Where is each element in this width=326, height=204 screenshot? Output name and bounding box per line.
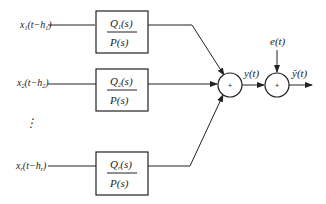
ellipsis: ⋮ — [25, 116, 37, 130]
input-1: x1(t−h1) — [19, 19, 95, 31]
connector-1 — [148, 25, 224, 75]
input-label-2: x2(t−h2) — [16, 77, 49, 89]
input-label-r: xr(t−hr) — [15, 160, 47, 172]
output-label: ŷ(t) — [291, 67, 308, 80]
transfer-block-1: Q1(s) P(s) — [96, 11, 148, 53]
summing-junction-1: + — [218, 73, 242, 97]
connector-r — [148, 95, 223, 166]
sum-1-symbol: + — [228, 82, 232, 89]
block-1-denominator: P(s) — [109, 36, 129, 49]
summing-junction-2: + — [265, 73, 289, 97]
block-diagram: x1(t−h1) x2(t−h2) ⋮ xr(t−hr) Q1(s) P(s) … — [0, 0, 326, 204]
sum-2-symbol: + — [275, 82, 279, 89]
input-2: x2(t−h2) — [16, 77, 96, 89]
noise-label: e(t) — [270, 35, 286, 48]
signal-y-label: y(t) — [243, 67, 260, 80]
block-2-numerator: Q2(s) — [110, 75, 133, 88]
block-2-denominator: P(s) — [109, 94, 129, 107]
transfer-block-2: Q2(s) P(s) — [96, 69, 148, 111]
block-1-numerator: Q1(s) — [110, 17, 133, 30]
block-r-numerator: Qr(s) — [110, 158, 132, 171]
input-r: xr(t−hr) — [15, 160, 96, 172]
transfer-block-r: Qr(s) P(s) — [96, 152, 148, 195]
input-label-1: x1(t−h1) — [19, 19, 52, 31]
block-r-denominator: P(s) — [109, 177, 129, 190]
